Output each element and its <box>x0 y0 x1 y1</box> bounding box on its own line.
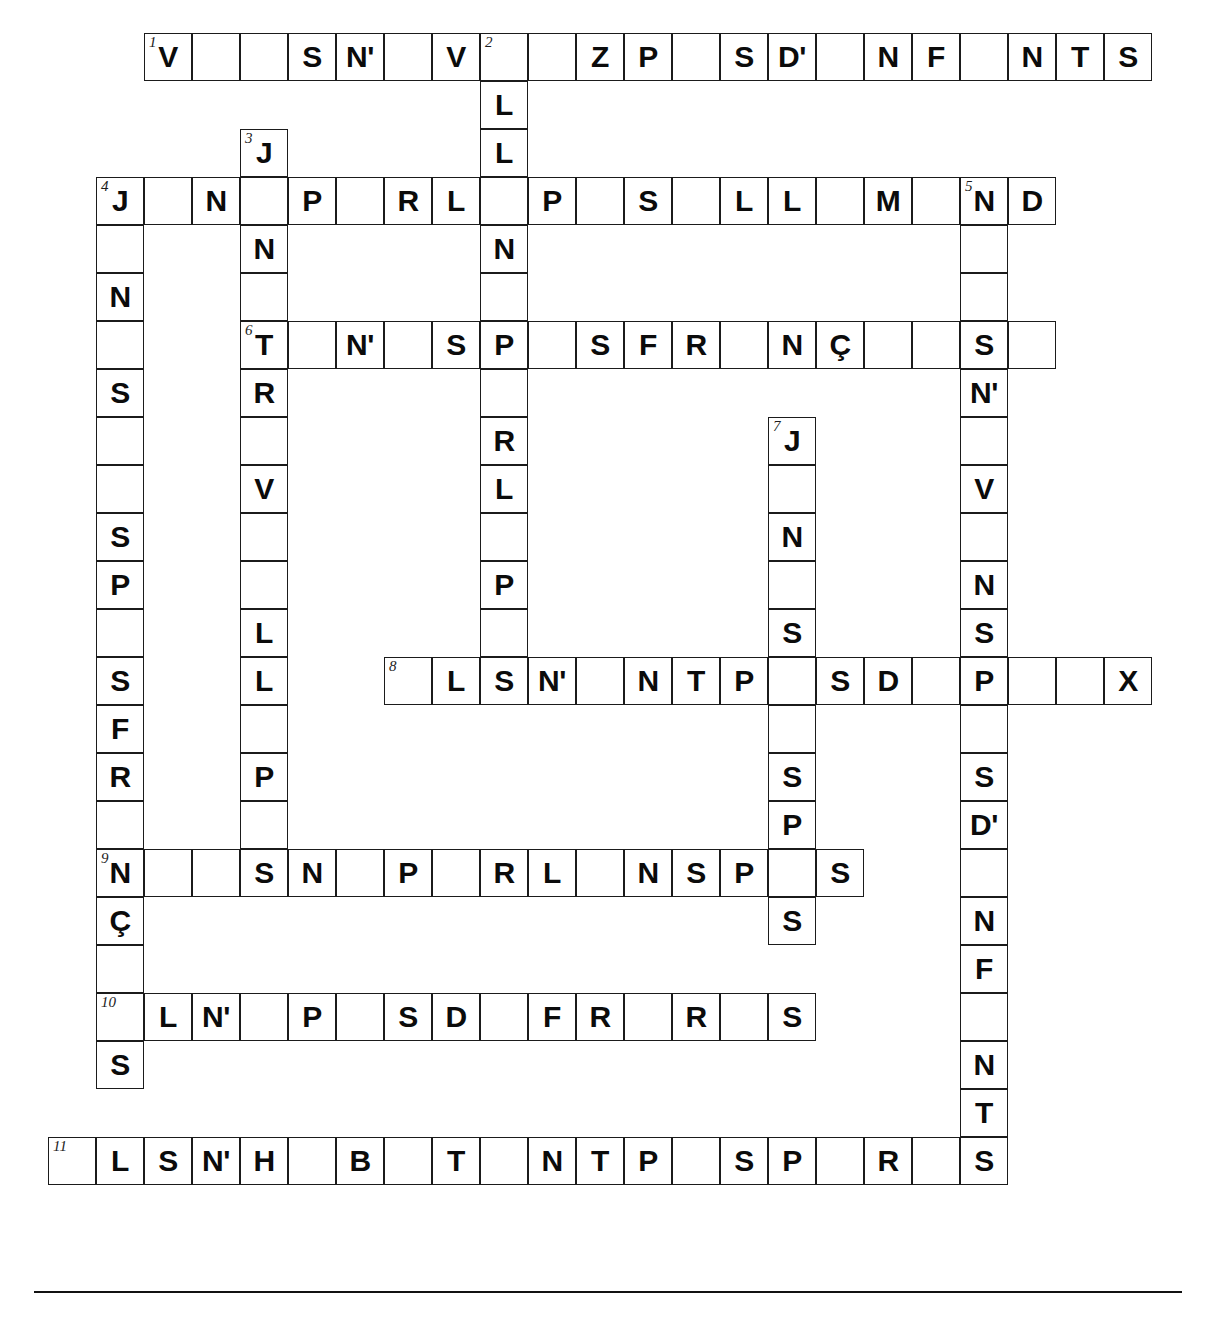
crossword-cell[interactable] <box>480 273 528 321</box>
crossword-cell[interactable] <box>96 321 144 369</box>
crossword-cell[interactable]: S <box>768 753 816 801</box>
crossword-cell[interactable]: L <box>720 177 768 225</box>
crossword-cell[interactable]: 2 <box>480 33 528 81</box>
crossword-cell[interactable] <box>912 1137 960 1185</box>
crossword-cell[interactable] <box>96 417 144 465</box>
crossword-cell[interactable]: S <box>1104 33 1152 81</box>
crossword-cell[interactable]: N <box>96 273 144 321</box>
crossword-cell[interactable] <box>720 993 768 1041</box>
crossword-cell[interactable]: P <box>624 33 672 81</box>
crossword-cell[interactable]: N <box>624 657 672 705</box>
crossword-cell[interactable]: R <box>240 369 288 417</box>
crossword-cell[interactable]: F <box>528 993 576 1041</box>
crossword-cell[interactable]: L <box>768 177 816 225</box>
crossword-cell[interactable]: S <box>96 657 144 705</box>
crossword-cell[interactable] <box>528 321 576 369</box>
crossword-cell[interactable] <box>960 417 1008 465</box>
crossword-cell[interactable]: D <box>432 993 480 1041</box>
crossword-cell[interactable]: S <box>816 657 864 705</box>
crossword-cell[interactable]: R <box>576 993 624 1041</box>
crossword-cell[interactable]: F <box>912 33 960 81</box>
crossword-cell[interactable] <box>144 177 192 225</box>
crossword-cell[interactable]: P <box>480 321 528 369</box>
crossword-cell[interactable]: 10 <box>96 993 144 1041</box>
crossword-cell[interactable]: L <box>480 129 528 177</box>
crossword-cell[interactable]: L <box>480 465 528 513</box>
crossword-cell[interactable] <box>528 33 576 81</box>
crossword-cell[interactable]: 5N <box>960 177 1008 225</box>
crossword-cell[interactable] <box>960 849 1008 897</box>
crossword-cell[interactable] <box>576 657 624 705</box>
crossword-cell[interactable]: N <box>960 897 1008 945</box>
crossword-cell[interactable]: L <box>144 993 192 1041</box>
crossword-cell[interactable]: 4J <box>96 177 144 225</box>
crossword-cell[interactable]: 8 <box>384 657 432 705</box>
crossword-cell[interactable]: D' <box>960 801 1008 849</box>
crossword-cell[interactable] <box>336 849 384 897</box>
crossword-cell[interactable] <box>192 33 240 81</box>
crossword-cell[interactable] <box>480 369 528 417</box>
crossword-cell[interactable] <box>288 321 336 369</box>
crossword-cell[interactable] <box>240 561 288 609</box>
crossword-cell[interactable]: S <box>96 369 144 417</box>
crossword-cell[interactable]: N <box>528 1137 576 1185</box>
crossword-cell[interactable]: S <box>960 321 1008 369</box>
crossword-cell[interactable]: V <box>240 465 288 513</box>
crossword-cell[interactable]: B <box>336 1137 384 1185</box>
crossword-cell[interactable] <box>816 177 864 225</box>
crossword-cell[interactable]: P <box>288 177 336 225</box>
crossword-cell[interactable]: S <box>816 849 864 897</box>
crossword-cell[interactable]: F <box>960 945 1008 993</box>
crossword-cell[interactable]: T <box>960 1089 1008 1137</box>
crossword-cell[interactable] <box>432 849 480 897</box>
crossword-cell[interactable] <box>960 33 1008 81</box>
crossword-cell[interactable]: S <box>432 321 480 369</box>
crossword-cell[interactable] <box>96 801 144 849</box>
crossword-cell[interactable]: S <box>960 1137 1008 1185</box>
crossword-cell[interactable] <box>96 225 144 273</box>
crossword-cell[interactable]: S <box>576 321 624 369</box>
crossword-cell[interactable] <box>912 657 960 705</box>
crossword-cell[interactable]: N <box>768 513 816 561</box>
crossword-cell[interactable]: S <box>96 513 144 561</box>
crossword-cell[interactable]: P <box>384 849 432 897</box>
crossword-cell[interactable] <box>960 705 1008 753</box>
crossword-cell[interactable]: R <box>864 1137 912 1185</box>
crossword-cell[interactable]: D <box>864 657 912 705</box>
crossword-cell[interactable] <box>288 1137 336 1185</box>
crossword-cell[interactable]: V <box>960 465 1008 513</box>
crossword-cell[interactable] <box>864 321 912 369</box>
crossword-cell[interactable] <box>96 465 144 513</box>
crossword-cell[interactable] <box>240 801 288 849</box>
crossword-cell[interactable]: N' <box>528 657 576 705</box>
crossword-cell[interactable]: N' <box>336 321 384 369</box>
crossword-cell[interactable]: N <box>960 1041 1008 1089</box>
crossword-cell[interactable]: R <box>96 753 144 801</box>
crossword-cell[interactable] <box>480 513 528 561</box>
crossword-cell[interactable]: L <box>240 609 288 657</box>
crossword-cell[interactable] <box>960 513 1008 561</box>
crossword-cell[interactable] <box>768 561 816 609</box>
crossword-cell[interactable] <box>624 993 672 1041</box>
crossword-cell[interactable]: R <box>480 849 528 897</box>
crossword-cell[interactable] <box>480 609 528 657</box>
crossword-cell[interactable] <box>720 321 768 369</box>
crossword-cell[interactable] <box>1008 657 1056 705</box>
crossword-cell[interactable]: V <box>432 33 480 81</box>
crossword-cell[interactable]: L <box>432 177 480 225</box>
crossword-cell[interactable] <box>96 945 144 993</box>
crossword-cell[interactable]: S <box>768 609 816 657</box>
crossword-cell[interactable]: H <box>240 1137 288 1185</box>
crossword-cell[interactable] <box>96 609 144 657</box>
crossword-cell[interactable]: S <box>480 657 528 705</box>
crossword-cell[interactable]: S <box>960 609 1008 657</box>
crossword-cell[interactable] <box>384 321 432 369</box>
crossword-cell[interactable]: 9N <box>96 849 144 897</box>
crossword-cell[interactable]: 3J <box>240 129 288 177</box>
crossword-cell[interactable] <box>240 993 288 1041</box>
crossword-cell[interactable]: P <box>720 849 768 897</box>
crossword-cell[interactable]: L <box>96 1137 144 1185</box>
crossword-cell[interactable]: F <box>96 705 144 753</box>
crossword-cell[interactable] <box>384 33 432 81</box>
crossword-cell[interactable]: S <box>624 177 672 225</box>
